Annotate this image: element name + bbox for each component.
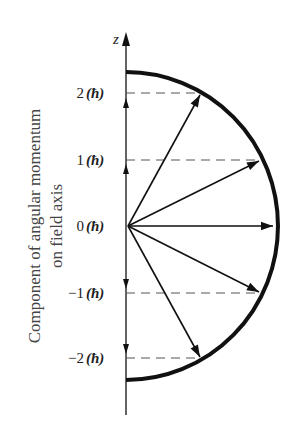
level-value: 0 (77, 218, 85, 234)
level-value: −2 (68, 350, 84, 366)
level-label-neg2: −2 (ħ) (68, 350, 104, 367)
level-label-2: 2 (ħ) (77, 85, 105, 102)
hbar-unit: (ħ) (86, 152, 104, 169)
vector-mneg1 (128, 226, 259, 292)
hbar-unit: (ħ) (86, 285, 104, 302)
axis-tick-arrow-icon (123, 344, 129, 354)
level-label-0: 0 (ħ) (77, 218, 105, 235)
angular-momentum-diagram: Component of angular momentum on field a… (0, 0, 290, 432)
vector-mneg2 (128, 226, 200, 357)
axis-tick-arrow-icon (123, 279, 129, 289)
side-label-line2: on field axis (47, 184, 66, 268)
level-value: 1 (77, 152, 85, 168)
vector-m1 (128, 161, 259, 226)
z-axis-arrow-icon (122, 32, 130, 46)
hbar-unit: (ħ) (86, 218, 104, 235)
axis-tick-arrow-icon (123, 164, 129, 174)
level-label-1: 1 (ħ) (77, 152, 105, 169)
level-value: −1 (68, 285, 84, 301)
hbar-unit: (ħ) (86, 350, 104, 367)
level-label-neg1: −1 (ħ) (68, 285, 104, 302)
side-label-line1: Component of angular momentum (25, 109, 44, 344)
hbar-unit: (ħ) (86, 85, 104, 102)
axis-tick-arrow-icon (123, 98, 129, 108)
z-axis-label: z (112, 31, 119, 47)
level-value: 2 (77, 85, 85, 101)
side-label: Component of angular momentum on field a… (25, 109, 66, 344)
